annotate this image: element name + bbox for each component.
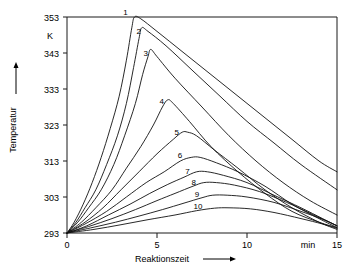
x-axis-title: Reaktionszeit — [135, 254, 190, 264]
curve-group — [67, 16, 337, 233]
x-tick-label-0: 0 — [64, 240, 69, 250]
x-tick-label-15: 15 — [332, 240, 342, 250]
plot-frame — [67, 17, 337, 233]
temperature-reaction-time-chart: 353 343 333 323 313 303 293 K 0 5 10 15 … — [0, 0, 351, 265]
y-tick-label-303: 303 — [44, 193, 59, 203]
x-tick-label-10: 10 — [242, 240, 252, 250]
curve-label-1: 1 — [123, 8, 128, 17]
y-axis-arrow-icon — [14, 62, 19, 94]
curve-label-3: 3 — [144, 49, 149, 58]
y-axis-unit: K — [47, 31, 53, 41]
curve-4 — [67, 100, 337, 233]
curve-label-2: 2 — [137, 27, 142, 36]
curve-label-10: 10 — [194, 202, 203, 211]
x-axis-arrow-icon — [203, 257, 236, 262]
y-tick-label-343: 343 — [44, 49, 59, 59]
x-axis-ticks — [67, 233, 337, 238]
curve-label-7: 7 — [185, 167, 190, 176]
x-axis-unit: min — [301, 240, 316, 250]
curve-label-8: 8 — [192, 178, 197, 187]
curve-1 — [67, 16, 337, 233]
y-tick-label-313: 313 — [44, 157, 59, 167]
y-tick-label-293: 293 — [44, 229, 59, 239]
y-tick-label-353: 353 — [44, 13, 59, 23]
curve-label-9: 9 — [195, 190, 200, 199]
curve-label-group: 12345678910 — [123, 8, 203, 211]
y-tick-label-333: 333 — [44, 85, 59, 95]
y-tick-label-323: 323 — [44, 121, 59, 131]
curve-label-5: 5 — [175, 128, 180, 137]
y-axis-ticks — [63, 17, 67, 233]
x-tick-label-5: 5 — [154, 240, 159, 250]
curve-label-6: 6 — [178, 151, 183, 160]
y-axis-title: Temperatur — [8, 107, 18, 153]
chart-page: 353 343 333 323 313 303 293 K 0 5 10 15 … — [0, 0, 351, 265]
curve-label-4: 4 — [160, 97, 165, 106]
